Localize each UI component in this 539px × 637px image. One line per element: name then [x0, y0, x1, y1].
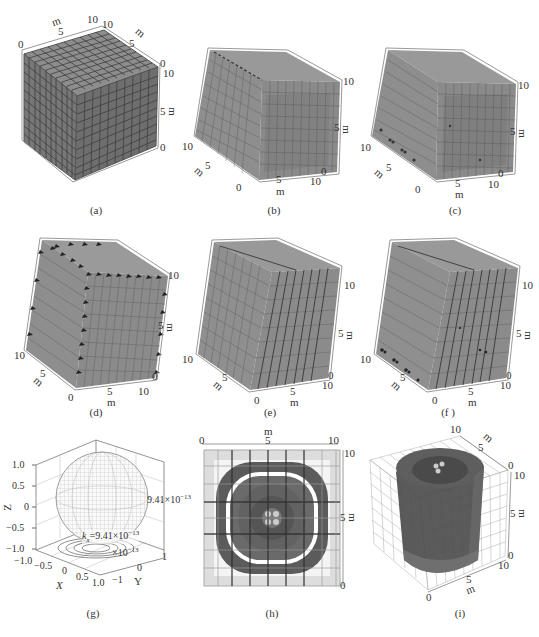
tick-label: 1.0	[92, 578, 105, 588]
axis-unit-label: m	[165, 323, 176, 332]
axis-unit-label: m	[523, 331, 534, 340]
panel-label: (h)	[252, 608, 292, 619]
annotation-small-base: ×10	[112, 547, 128, 558]
tick-label: 5	[478, 442, 484, 453]
panel-label: (i)	[440, 608, 480, 619]
tick-label: 0	[254, 395, 260, 406]
tick-label: 0	[199, 435, 205, 446]
panel-h: m 0 5 10 10 5 m 0 (h)	[180, 410, 360, 620]
grid-cube-plot	[360, 0, 539, 210]
tick-label: 5	[265, 435, 271, 446]
grid-cube-plot	[360, 220, 539, 420]
tick-label: 10	[500, 380, 511, 391]
annotation-k-exp: −13	[128, 529, 139, 537]
tick-label: 10	[360, 142, 371, 153]
tick-label: 5	[158, 320, 164, 331]
tick-label: 0	[340, 580, 346, 591]
tick-label: 1.0	[12, 460, 25, 470]
tick-label: −1	[112, 575, 123, 585]
tick-label: 10	[182, 141, 193, 152]
z-axis-label: Z	[2, 504, 13, 511]
grid-cube-plot	[0, 0, 180, 210]
panel-i: 10 5 m 0 10 5 m 0 0 5 m 10 (i)	[360, 410, 539, 620]
tick-label: 0	[18, 39, 24, 50]
tick-label: 10	[102, 19, 113, 30]
grid-cube-plot	[0, 220, 180, 420]
axis-unit-label: m	[167, 107, 178, 116]
tick-label: 5	[276, 174, 282, 185]
tick-label: −0.5	[34, 561, 52, 571]
tick-label: 10	[87, 14, 98, 25]
panel-label: (d)	[76, 407, 116, 418]
tick-label: 0	[508, 460, 514, 471]
tick-label: 0	[160, 142, 166, 153]
axis-unit-label: m	[345, 331, 356, 340]
panel-a: 0 5 10 m 10 5 m 0 10 5 m 0 (a)	[0, 0, 180, 210]
axis-unit-label: m	[517, 129, 528, 138]
panel-label: (a)	[76, 205, 116, 216]
tick-label: −0.5	[6, 523, 24, 533]
tick-label: 10	[310, 176, 321, 187]
tick-label: 0	[152, 371, 158, 382]
grid-cube-plot	[180, 220, 360, 420]
tick-label: 10	[163, 68, 174, 79]
tick-label: 10	[498, 560, 509, 571]
tick-label: 0	[321, 166, 327, 177]
tick-label: 10	[328, 435, 339, 446]
tick-label: 0	[236, 182, 242, 193]
tick-label: 5	[58, 26, 64, 37]
axis-unit-label: m	[290, 397, 299, 408]
annotation-small: ×10−13	[112, 547, 139, 558]
tick-label: 10	[344, 448, 355, 459]
panel-f: 10 5 m 0 0 5 m 10 10 5 m (f )	[360, 220, 539, 420]
annotation-right-base: 9.41×10	[147, 494, 180, 505]
panel-b: 10 5 m 0 0 5 m 10 10 5 m (b)	[180, 0, 360, 210]
panel-label: (c)	[435, 205, 475, 216]
tick-label: 0	[68, 392, 74, 403]
tick-label: 5	[510, 126, 516, 137]
tick-label: 10	[360, 354, 371, 365]
tick-label: 10	[488, 179, 499, 190]
tick-label: 10	[182, 354, 193, 365]
annotation-small-exp: −13	[128, 546, 139, 554]
panel-label: (b)	[254, 205, 294, 216]
tick-label: 10	[343, 76, 354, 87]
panel-d: 10 5 m 0 0 5 m 10 10 5 m (d)	[0, 220, 180, 420]
axis-unit-label: m	[341, 125, 352, 134]
tick-label: 10	[518, 80, 529, 91]
panel-label: (g)	[73, 608, 113, 619]
sphere-plot	[0, 420, 180, 620]
figure-caption	[80, 624, 460, 632]
tick-label: 0	[24, 502, 29, 512]
y-axis-label: Y	[134, 576, 142, 587]
tick-label: 5	[340, 512, 346, 523]
tick-label: 10	[344, 280, 355, 291]
tick-label: 0	[432, 395, 438, 406]
tick-label: 0	[415, 184, 421, 195]
annotation-k-value: =9.41×10	[90, 530, 129, 541]
tick-label: −1.0	[14, 556, 32, 566]
tick-label: 10	[450, 424, 461, 435]
tick-label: 5	[338, 328, 344, 339]
tick-label: 0.5	[76, 572, 89, 582]
tick-label: 0	[426, 592, 432, 603]
tick-label: 10	[322, 380, 333, 391]
tick-label: 5	[510, 508, 516, 519]
annotation-kx: kx=9.41×10−13	[82, 530, 139, 544]
axis-unit-label: m	[347, 513, 358, 522]
tick-label: 0.5	[12, 481, 25, 491]
axis-unit-label: m	[455, 189, 464, 200]
axis-unit-label: m	[517, 509, 528, 518]
tick-label: −1.0	[6, 544, 24, 554]
axis-unit-label: m	[276, 186, 285, 197]
tick-label: 0	[137, 563, 142, 573]
x-axis-label: X	[56, 580, 63, 591]
grid-cube-plot	[180, 0, 360, 210]
panel-c: 10 5 m 0 0 5 m 10 10 5 m (c)	[360, 0, 539, 210]
panel-e: 10 5 m 0 0 5 m 10 10 5 m (e)	[180, 220, 360, 420]
tick-label: 10	[522, 280, 533, 291]
tick-label: 10	[14, 350, 25, 361]
tick-label: 10	[138, 386, 149, 397]
tick-label: 5	[129, 38, 135, 49]
tick-label: 10	[514, 470, 525, 481]
